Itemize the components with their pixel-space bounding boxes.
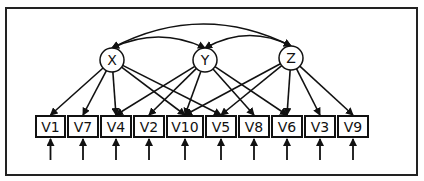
loading-X-V4: [113, 72, 116, 115]
path-diagram: XYZ V1V7V4V2V10V5V8V6V3V9: [0, 0, 424, 181]
observed-label: V6: [278, 119, 297, 135]
observed-node-V6: V6: [272, 116, 302, 137]
observed-label: V10: [171, 119, 198, 135]
observed-label: V7: [74, 119, 92, 135]
observed-node-V8: V8: [239, 116, 269, 137]
observed-label: V2: [140, 119, 158, 135]
latent-node-Y: Y: [193, 48, 217, 72]
latent-label: Z: [286, 50, 296, 66]
loading-Y-V8: [213, 69, 254, 115]
covariance-X-Y: [112, 37, 205, 48]
latent-node-Z: Z: [279, 46, 303, 70]
loading-X-V7: [83, 71, 106, 115]
observed-label: V4: [107, 119, 126, 135]
observed-label: V5: [212, 119, 230, 135]
loading-Z-V3: [296, 69, 320, 115]
covariance-arcs: [112, 24, 291, 48]
observed-label: V1: [41, 119, 59, 135]
observed-node-V2: V2: [134, 116, 164, 137]
observed-node-V5: V5: [206, 116, 236, 137]
loading-X-V5: [123, 65, 221, 115]
observed-nodes: V1V7V4V2V10V5V8V6V3V9: [36, 116, 368, 137]
observed-label: V9: [344, 119, 362, 135]
observed-label: V8: [245, 119, 263, 135]
loading-Y-V2: [149, 68, 196, 115]
observed-node-V3: V3: [305, 116, 335, 137]
observed-node-V9: V9: [338, 116, 368, 137]
observed-label: V3: [311, 119, 329, 135]
loading-Z-V6: [287, 70, 290, 115]
observed-node-V1: V1: [36, 116, 65, 137]
latent-label: Y: [200, 52, 210, 68]
observed-node-V4: V4: [101, 116, 131, 137]
observed-node-V7: V7: [68, 116, 98, 137]
error-arrows: [51, 139, 354, 160]
latent-label: X: [107, 52, 117, 68]
covariance-Y-Z: [205, 35, 291, 48]
observed-node-V10: V10: [167, 116, 203, 137]
latent-node-X: X: [100, 48, 124, 72]
